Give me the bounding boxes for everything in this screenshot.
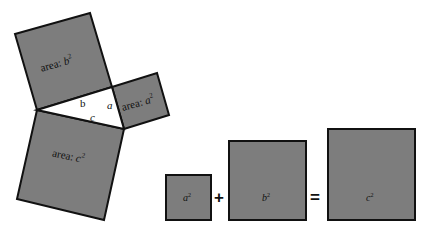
pythagorean-diagram: area: b2 area: a2 area: c2 b a c a2 + b2 [0,0,431,234]
term2-sup: 2 [267,192,270,198]
term3-sup: 2 [370,192,373,198]
plus-sign: + [214,188,224,207]
term1-sup: 2 [188,192,191,198]
triangle-side-b: b [80,97,86,109]
equals-sign: = [310,188,320,207]
equation-term-c-squared: c2 [328,129,415,220]
triangle-side-c: c [90,111,95,123]
triangle-side-a: a [107,99,113,111]
equation-term-a-squared: a2 [166,175,211,220]
equation-term-b-squared: b2 [229,141,306,220]
